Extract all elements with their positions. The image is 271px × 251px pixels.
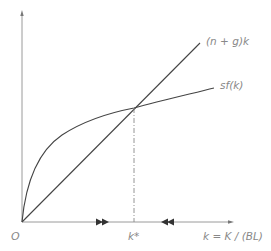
depreciation-line <box>22 43 200 222</box>
arrow-right-2 <box>102 219 109 226</box>
line-label: (n + g)k <box>206 36 249 47</box>
steady-state-label: k* <box>128 231 139 242</box>
rightward-arrows <box>96 219 109 226</box>
savings-curve <box>22 88 214 222</box>
arrow-left-1 <box>161 219 168 226</box>
x-axis-label: k = K / (BL) <box>203 231 263 242</box>
leftward-arrows <box>161 219 174 226</box>
curve-label: sf(k) <box>220 80 243 91</box>
y-axis-arrowhead <box>20 10 23 16</box>
arrow-right-1 <box>96 219 103 226</box>
x-axis-arrowhead <box>228 220 234 223</box>
origin-label: O <box>11 231 20 242</box>
arrow-left-2 <box>167 219 174 226</box>
